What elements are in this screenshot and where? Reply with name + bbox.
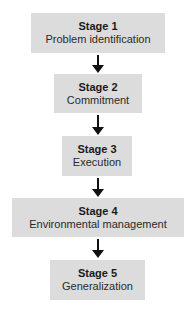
arrow-down-icon xyxy=(92,239,104,258)
stage-4-box: Stage 4 Environmental management xyxy=(12,198,184,237)
stage-1-title: Stage 1 xyxy=(78,20,117,33)
stage-5-title: Stage 5 xyxy=(78,267,117,280)
arrow-down-icon xyxy=(92,178,104,197)
stage-1-label: Problem identification xyxy=(45,33,150,46)
stage-2-title: Stage 2 xyxy=(78,81,117,94)
arrow-down-icon xyxy=(92,55,104,73)
stage-5-box: Stage 5 Generalization xyxy=(50,260,145,300)
stage-3-box: Stage 3 Execution xyxy=(62,136,132,176)
stage-4-title: Stage 4 xyxy=(78,205,117,218)
stage-1-box: Stage 1 Problem identification xyxy=(31,13,165,53)
stage-3-title: Stage 3 xyxy=(77,143,116,156)
stage-5-label: Generalization xyxy=(62,280,133,293)
stage-3-label: Execution xyxy=(73,156,121,169)
arrow-down-icon xyxy=(92,115,104,135)
stage-4-label: Environmental management xyxy=(29,218,167,231)
stage-2-label: Commitment xyxy=(67,94,129,107)
stage-2-box: Stage 2 Commitment xyxy=(54,74,142,113)
